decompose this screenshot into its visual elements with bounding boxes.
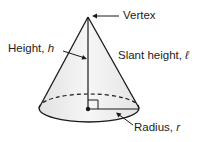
radius-label: Radius, r [134, 122, 180, 134]
center-dot [86, 107, 90, 111]
slant-height-label: Slant height, ℓ [118, 50, 189, 62]
vertex-label: Vertex [123, 10, 156, 22]
height-label: Height, h [8, 43, 54, 55]
cone-body [39, 17, 139, 122]
vertex-arrowhead [92, 14, 97, 19]
